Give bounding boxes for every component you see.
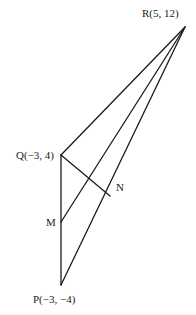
label-N: N — [116, 181, 124, 193]
triangle-diagram: R(5, 12) Q(−3, 4) P(−3, −4) M N — [0, 0, 196, 315]
segment-PR — [61, 27, 185, 285]
segment-QR — [61, 27, 185, 155]
label-R: R(5, 12) — [142, 7, 179, 20]
label-Q: Q(−3, 4) — [16, 149, 54, 162]
label-P: P(−3, −4) — [33, 293, 76, 306]
segment-QN — [61, 155, 110, 196]
label-M: M — [46, 216, 56, 228]
